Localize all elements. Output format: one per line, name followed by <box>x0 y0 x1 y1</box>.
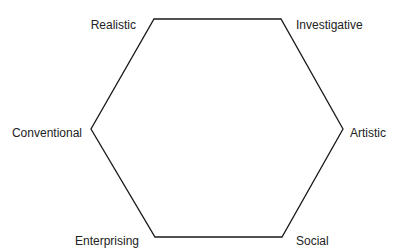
hexagon-outline <box>91 19 343 237</box>
hexagon-figure: Realistic Investigative Artistic Social … <box>0 0 398 252</box>
label-social: Social <box>296 234 329 248</box>
label-conventional: Conventional <box>12 126 82 140</box>
label-investigative: Investigative <box>296 18 363 32</box>
riasec-hexagon-diagram: Realistic Investigative Artistic Social … <box>0 0 398 252</box>
label-artistic: Artistic <box>350 126 386 140</box>
label-enterprising: Enterprising <box>75 234 139 248</box>
label-realistic: Realistic <box>91 18 136 32</box>
